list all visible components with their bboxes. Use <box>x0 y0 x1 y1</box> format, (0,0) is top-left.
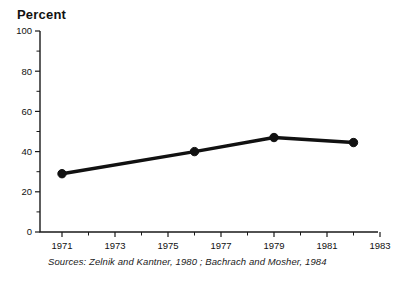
y-tick-label: 20 <box>21 186 32 197</box>
y-tick-label: 40 <box>21 146 32 157</box>
x-tick-label: 1975 <box>157 240 178 251</box>
line-chart-plot: 020406080100 197119731975197719791981198… <box>0 0 395 283</box>
data-point <box>349 138 357 146</box>
data-point <box>190 147 198 155</box>
data-point <box>270 133 278 141</box>
x-tick-label: 1979 <box>263 240 284 251</box>
data-point <box>58 170 66 178</box>
y-tick-label: 60 <box>21 106 32 117</box>
x-tick-label: 1973 <box>104 240 125 251</box>
x-tick-label: 1971 <box>51 240 72 251</box>
x-tick-label: 1977 <box>210 240 231 251</box>
x-axis-ticks: 1971197319751977197919811983 <box>51 232 390 251</box>
y-axis-ticks: 020406080100 <box>16 25 40 237</box>
source-note: Sources: Zelnik and Kantner, 1980 ; Bach… <box>48 256 327 267</box>
axis-frame <box>40 31 378 232</box>
y-tick-label: 80 <box>21 66 32 77</box>
chart-container: Percent 020406080100 1971197319751977197… <box>0 0 395 283</box>
x-tick-label: 1983 <box>369 240 390 251</box>
x-tick-label: 1981 <box>316 240 337 251</box>
y-tick-label: 0 <box>27 226 32 237</box>
data-series-line <box>62 138 354 174</box>
y-tick-label: 100 <box>16 25 32 36</box>
